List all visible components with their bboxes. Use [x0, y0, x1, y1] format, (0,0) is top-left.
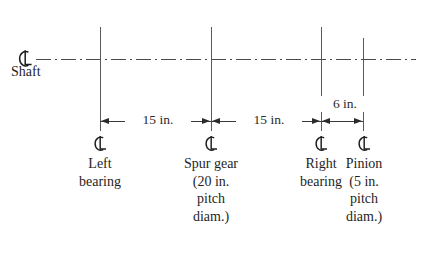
dimension-1-label: 15 in.	[125, 112, 191, 128]
station-line-spur-gear	[211, 27, 212, 131]
dimension-3-arrow-left	[322, 118, 330, 124]
left-bearing-centerline-icon	[55, 134, 145, 154]
dimension-2-label: 15 in.	[236, 112, 302, 128]
dimension-3-arrow-right	[354, 118, 362, 124]
spur-gear-centerline-icon	[156, 134, 266, 154]
left-bearing-line-2: bearing	[55, 173, 145, 191]
spur-gear-line-2: (20 in.	[156, 173, 266, 191]
dimension-1-arrow-left	[101, 118, 109, 124]
dimension-3-label: 6 in.	[317, 96, 373, 112]
pinion-centerline-icon	[320, 134, 408, 154]
shaft-label: Shaft	[11, 64, 41, 80]
pinion-line-4: diam.)	[320, 208, 408, 226]
pinion-line-3: pitch	[320, 190, 408, 208]
shaft-layout-diagram: Shaft 15 in. 15 in. 6 in. Left bearing	[0, 0, 431, 259]
station-caption-pinion: Pinion (5 in. pitch diam.)	[320, 134, 408, 225]
spur-gear-line-4: diam.)	[156, 208, 266, 226]
dimension-2-arrow-left	[212, 118, 220, 124]
left-bearing-line-1: Left	[55, 155, 145, 173]
station-caption-spur-gear: Spur gear (20 in. pitch diam.)	[156, 134, 266, 225]
spur-gear-line-1: Spur gear	[156, 155, 266, 173]
dimension-2-arrow-right	[312, 118, 320, 124]
station-line-left-bearing	[100, 27, 101, 131]
station-line-pinion	[363, 38, 364, 131]
spur-gear-line-3: pitch	[156, 190, 266, 208]
pinion-line-1: Pinion	[320, 155, 408, 173]
dimension-1-arrow-right	[202, 118, 210, 124]
station-caption-left-bearing: Left bearing	[55, 134, 145, 190]
pinion-line-2: (5 in.	[320, 173, 408, 191]
station-line-right-bearing	[321, 27, 322, 131]
